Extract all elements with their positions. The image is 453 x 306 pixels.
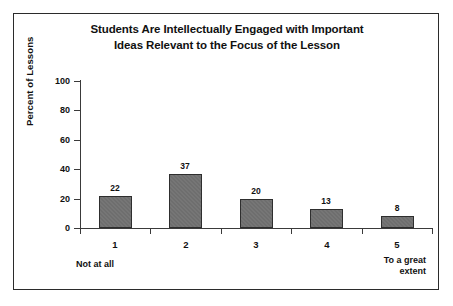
- bar-category-3[interactable]: [240, 199, 273, 228]
- x-tick-boundary-2: [221, 229, 222, 234]
- y-tick-label-60: 60: [40, 136, 70, 145]
- bar-value-label-3: 20: [236, 187, 276, 196]
- chart-title-line-1: Students Are Intellectually Engaged with…: [40, 22, 414, 38]
- x-category-label-5: 5: [367, 239, 427, 250]
- y-tick-label-0: 0: [40, 224, 70, 233]
- x-tick-boundary-0: [80, 229, 81, 234]
- y-axis-title: Percent of Lessons: [24, 16, 38, 126]
- x-category-label-4: 4: [297, 239, 357, 250]
- scale-anchor-high-label: To a great extent: [384, 255, 426, 277]
- bar-value-label-5: 8: [377, 204, 417, 213]
- y-tick-80: [74, 110, 80, 111]
- x-tick-boundary-4: [362, 229, 363, 234]
- x-tick-boundary-5: [432, 229, 433, 234]
- y-tick-20: [74, 199, 80, 200]
- y-tick-label-80: 80: [40, 106, 70, 115]
- y-tick-100: [74, 81, 80, 82]
- y-tick-40: [74, 169, 80, 170]
- figure: Students Are Intellectually Engaged with…: [0, 0, 453, 306]
- bar-category-1[interactable]: [99, 196, 132, 228]
- bar-category-4[interactable]: [310, 209, 343, 228]
- bar-category-5[interactable]: [381, 216, 414, 228]
- scale-anchor-high-line-1: To a great: [384, 255, 426, 266]
- y-tick-60: [74, 140, 80, 141]
- scale-anchor-high-line-2: extent: [384, 266, 426, 277]
- x-tick-boundary-3: [291, 229, 292, 234]
- y-axis-line: [80, 80, 81, 229]
- x-category-label-3: 3: [226, 239, 286, 250]
- y-tick-label-100: 100: [40, 77, 70, 86]
- bar-category-2[interactable]: [169, 174, 202, 228]
- bar-value-label-2: 37: [165, 162, 205, 171]
- x-tick-boundary-1: [150, 229, 151, 234]
- scale-anchor-low-label: Not at all: [76, 259, 114, 270]
- bar-value-label-4: 13: [306, 197, 346, 206]
- chart-title-line-2: Ideas Relevant to the Focus of the Lesso…: [40, 38, 414, 54]
- x-axis-line: [80, 228, 433, 229]
- y-tick-label-20: 20: [40, 195, 70, 204]
- y-tick-label-40: 40: [40, 165, 70, 174]
- x-category-label-1: 1: [85, 239, 145, 250]
- chart-title: Students Are Intellectually Engaged with…: [40, 22, 414, 53]
- x-category-label-2: 2: [156, 239, 216, 250]
- bar-value-label-1: 22: [95, 184, 135, 193]
